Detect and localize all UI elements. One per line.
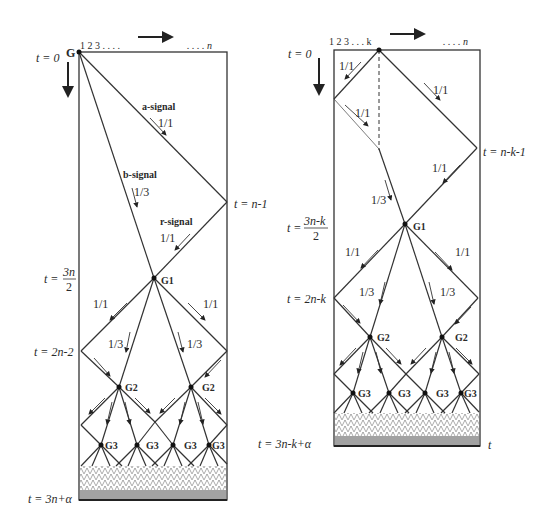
general-label: G xyxy=(66,46,75,60)
b-signal-speed: 1/3 xyxy=(134,185,149,199)
cell-label-start: 1 2 3 . . . . xyxy=(80,40,120,51)
speed-label: 1/1 xyxy=(432,161,447,175)
speed-label: 1/1 xyxy=(455,245,470,259)
speed-label: 1/1 xyxy=(339,59,354,73)
time-label-3n2-prefix: t = xyxy=(44,272,58,286)
time-label-t0: t = 0 xyxy=(36,51,59,65)
b-signal-label: b-signal xyxy=(123,169,157,180)
time-axis-label: t xyxy=(488,438,492,452)
g2-label: G2 xyxy=(125,382,138,393)
g3-label: G3 xyxy=(464,388,477,399)
speed-label: 1/3 xyxy=(371,193,386,207)
g1-label: G1 xyxy=(413,221,426,232)
a-signal-speed: 1/1 xyxy=(158,116,173,130)
time-label-t0: t = 0 xyxy=(288,47,311,61)
speed-label: 1/1 xyxy=(93,297,108,311)
g3-label: G3 xyxy=(212,440,225,451)
g3-label: G3 xyxy=(436,388,449,399)
g3-label: G3 xyxy=(146,440,159,451)
r-signal-label: r-signal xyxy=(160,216,193,227)
g1-label: G1 xyxy=(161,275,174,286)
g3-label: G3 xyxy=(358,388,371,399)
g3-label: G3 xyxy=(184,440,197,451)
time-label-3n2-num: 3n xyxy=(62,265,75,279)
g3-label: G3 xyxy=(398,388,411,399)
speed-label: 1/1 xyxy=(203,297,218,311)
g2-label: G2 xyxy=(202,382,215,393)
speed-label: 1/1 xyxy=(355,106,370,120)
b-signal-line xyxy=(79,52,154,278)
a-signal-label: a-signal xyxy=(142,101,176,112)
firing-squad-diagram: G 1 2 3 . . . . . . . . n t = 0 t = n-1 … xyxy=(0,0,554,524)
g1-dot xyxy=(152,276,157,281)
right-diagram: 1 2 3 . . . k . . . . n t = 0 t = n-k-1 … xyxy=(258,34,526,452)
cell-label-end: . . . . n xyxy=(187,40,212,51)
time-label-final: t = 3n-k+α xyxy=(258,437,312,451)
time-label-2n-k: t = 2n-k xyxy=(287,292,326,306)
r-signal-speed: 1/1 xyxy=(160,231,175,245)
time-label-n-k-1: t = n-k-1 xyxy=(483,145,526,159)
left-diagram: G 1 2 3 . . . . . . . . n t = 0 t = n-1 … xyxy=(28,37,267,506)
speed-label: 1/1 xyxy=(433,83,448,97)
time-label-3n2-den: 2 xyxy=(66,280,72,294)
speed-label: 1/3 xyxy=(440,285,455,299)
g3-label: G3 xyxy=(105,440,118,451)
time-label-3nk-num: 3n-k xyxy=(303,214,326,228)
speed-label: 1/3 xyxy=(108,337,123,351)
time-label-2n-minus-2: t = 2n-2 xyxy=(34,345,73,359)
cell-label-start: 1 2 3 . . . k xyxy=(329,36,372,47)
speed-label: 1/1 xyxy=(345,245,360,259)
speed-label: 1/3 xyxy=(187,337,202,351)
speed-label: 1/3 xyxy=(359,285,374,299)
g2-label: G2 xyxy=(455,332,468,343)
fine-pattern-left xyxy=(80,466,226,490)
time-label-3nk-den: 2 xyxy=(313,229,319,243)
time-label-n-minus-1: t = n-1 xyxy=(234,197,267,211)
cell-label-end: . . . . n xyxy=(443,36,468,47)
g2-label: G2 xyxy=(377,332,390,343)
fine-pattern-right xyxy=(335,413,479,436)
time-label-3nk-prefix: t = xyxy=(287,221,301,235)
time-label-final: t = 3n+α xyxy=(28,492,73,506)
